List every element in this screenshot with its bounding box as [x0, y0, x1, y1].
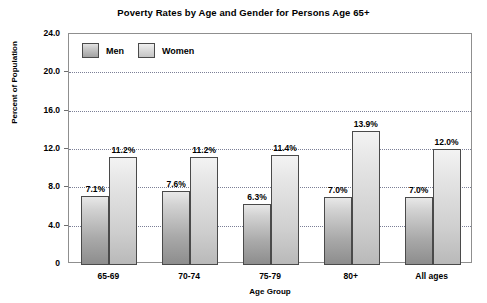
bar-men-65-69	[81, 196, 109, 265]
x-axis-tick-label: 80+	[311, 272, 391, 281]
bar-men-75-79	[243, 204, 271, 265]
legend-label-women: Women	[162, 46, 194, 56]
bar-men-all-ages	[405, 197, 433, 265]
bar-women-70-74	[190, 157, 218, 265]
y-axis-tick-label: 12.0	[14, 144, 60, 153]
gridline	[69, 72, 471, 73]
gridline	[69, 111, 471, 112]
bar-women-65-69	[109, 157, 137, 265]
y-axis-tick-label: 0	[14, 259, 60, 268]
chart-title: Poverty Rates by Age and Gender for Pers…	[0, 7, 487, 18]
bar-value-label: 13.9%	[346, 120, 386, 129]
bar-women-75-79	[271, 155, 299, 265]
plot-area: 7.1%11.2%7.6%11.2%6.3%11.4%7.0%13.9%7.0%…	[68, 33, 472, 263]
y-axis-tick-label: 24.0	[14, 29, 60, 38]
bar-value-label: 11.2%	[103, 146, 143, 155]
poverty-rates-bar-chart: Poverty Rates by Age and Gender for Pers…	[0, 0, 487, 303]
x-axis-tick-label: 70-74	[149, 272, 229, 281]
women-swatch-icon	[138, 43, 155, 58]
y-axis-tick-label: 8.0	[14, 182, 60, 191]
bar-value-label: 11.2%	[184, 146, 224, 155]
y-axis-title: Percent of Population	[10, 23, 19, 143]
legend-entry-men: Men	[82, 43, 124, 58]
bar-men-70-74	[162, 191, 190, 265]
legend-entry-women: Women	[138, 43, 194, 58]
bar-men-80+	[324, 197, 352, 265]
men-swatch-icon	[82, 43, 99, 58]
bar-women-80+	[352, 131, 380, 265]
bar-value-label: 11.4%	[265, 144, 305, 153]
bar-women-all-ages	[433, 149, 461, 265]
y-axis-tick-label: 20.0	[14, 67, 60, 76]
plot-inner: 7.1%11.2%7.6%11.2%6.3%11.4%7.0%13.9%7.0%…	[69, 34, 471, 262]
bar-value-label: 12.0%	[427, 138, 467, 147]
chart-legend: Men Women	[82, 43, 194, 58]
y-axis-tick-label: 4.0	[14, 221, 60, 230]
legend-label-men: Men	[106, 46, 124, 56]
y-axis-tick-label: 16.0	[14, 106, 60, 115]
x-axis-tick-label: 75-79	[230, 272, 310, 281]
x-axis-tick-label: 65-69	[68, 272, 148, 281]
x-axis-tick-label: All ages	[392, 272, 472, 281]
x-axis-title: Age Group	[68, 287, 472, 296]
